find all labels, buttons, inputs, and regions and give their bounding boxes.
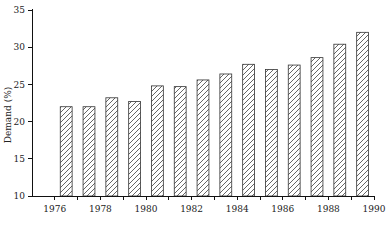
bar-1984: [243, 64, 255, 196]
bar-1983: [220, 74, 232, 196]
y-tick-label: 20: [14, 117, 26, 127]
x-tick-label: 1988: [317, 204, 340, 214]
bar-1985: [265, 70, 277, 196]
x-tick-label: 1984: [226, 204, 249, 214]
x-tick-label: 1978: [89, 204, 112, 214]
x-axis: 19761978198019821984198619881990: [32, 196, 386, 214]
y-axis: 101520253035: [14, 5, 32, 201]
y-tick-label: 25: [14, 80, 26, 90]
bars-group: [60, 32, 368, 196]
y-tick-label: 15: [14, 154, 26, 164]
bar-1988: [334, 44, 346, 196]
y-tick-label: 30: [14, 42, 26, 52]
bar-1979: [129, 102, 141, 196]
bar-1978: [106, 98, 118, 196]
chart-canvas: 101520253035 197619781980198219841986198…: [0, 0, 392, 229]
y-tick-label: 10: [14, 191, 26, 201]
bar-1977: [83, 107, 95, 196]
x-tick-label: 1982: [180, 204, 203, 214]
x-tick-label: 1976: [43, 204, 66, 214]
bar-1986: [288, 65, 300, 196]
y-tick-label: 35: [14, 5, 26, 15]
x-tick-label: 1986: [271, 204, 294, 214]
x-tick-label: 1980: [135, 204, 158, 214]
bar-1976: [60, 107, 72, 196]
bar-1987: [311, 58, 323, 196]
bar-1981: [174, 87, 186, 196]
bar-1982: [197, 80, 209, 196]
x-tick-label: 1990: [363, 204, 386, 214]
bar-chart-demand: 101520253035 197619781980198219841986198…: [0, 0, 392, 229]
bar-1980: [151, 86, 163, 196]
y-axis-title: Demand (%): [3, 87, 13, 143]
bar-1989: [357, 32, 369, 196]
